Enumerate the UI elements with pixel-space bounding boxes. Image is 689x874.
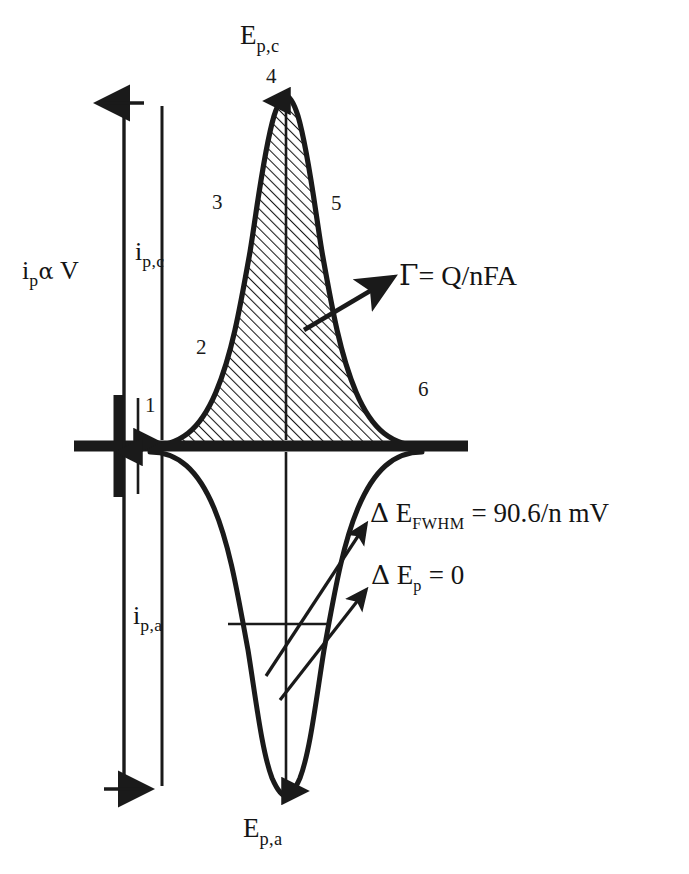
dep-relation: = bbox=[429, 560, 444, 590]
gamma-relation: = bbox=[418, 260, 434, 291]
curve-point-5: 5 bbox=[331, 193, 342, 214]
peak-separation-leader-arrow bbox=[280, 590, 366, 700]
epa-subscript: p,a bbox=[260, 829, 283, 849]
equation-fwhm: Δ EFWHM = 90.6/n mV bbox=[370, 500, 609, 527]
voltammogram-drawing bbox=[0, 0, 689, 874]
epc-base: E bbox=[240, 20, 257, 50]
alpha-symbol: α bbox=[38, 258, 53, 284]
ipc-current-subscript: p,c bbox=[142, 251, 164, 271]
curve-point-6: 6 bbox=[418, 379, 429, 400]
gamma-symbol: Γ bbox=[399, 259, 418, 292]
curve-point-4: 4 bbox=[266, 66, 277, 87]
fwhm-base: E bbox=[396, 498, 413, 528]
fwhm-subscript: FWHM bbox=[412, 515, 464, 533]
label-peak-cathodic-current: ip,c bbox=[135, 239, 164, 265]
scan-rate-variable: V bbox=[60, 256, 79, 285]
curve-point-3: 3 bbox=[212, 192, 223, 213]
dep-subscript: p bbox=[413, 577, 422, 595]
dep-delta-symbol: Δ bbox=[371, 559, 390, 590]
dep-base: E bbox=[397, 560, 414, 590]
epc-subscript: p,c bbox=[257, 36, 280, 56]
label-current-proportional-to-scanrate: ipα V bbox=[22, 258, 79, 284]
label-peak-anodic-potential: Ep,a bbox=[243, 815, 283, 842]
label-peak-anodic-current: ip,a bbox=[133, 603, 162, 629]
ip-subscript: p bbox=[29, 270, 38, 290]
fwhm-delta-symbol: Δ bbox=[370, 497, 389, 528]
equation-peak-separation: Δ Ep = 0 bbox=[371, 562, 464, 589]
label-peak-cathodic-potential: Ep,c bbox=[240, 22, 280, 49]
ipa-current-subscript: p,a bbox=[140, 615, 162, 635]
curve-point-2: 2 bbox=[196, 337, 207, 358]
epa-base: E bbox=[243, 813, 260, 843]
gamma-expression: Q/nFA bbox=[441, 260, 517, 291]
dep-value: 0 bbox=[451, 560, 465, 590]
fwhm-relation: = bbox=[471, 498, 486, 528]
fwhm-value: 90.6/n mV bbox=[493, 498, 609, 528]
curve-point-1: 1 bbox=[145, 395, 156, 416]
cyclic-voltammogram-figure: Ep,c Ep,a ipα V ip,c ip,a 1 2 3 4 5 6 Γ=… bbox=[0, 0, 689, 874]
equation-surface-coverage: Γ= Q/nFA bbox=[399, 262, 517, 290]
